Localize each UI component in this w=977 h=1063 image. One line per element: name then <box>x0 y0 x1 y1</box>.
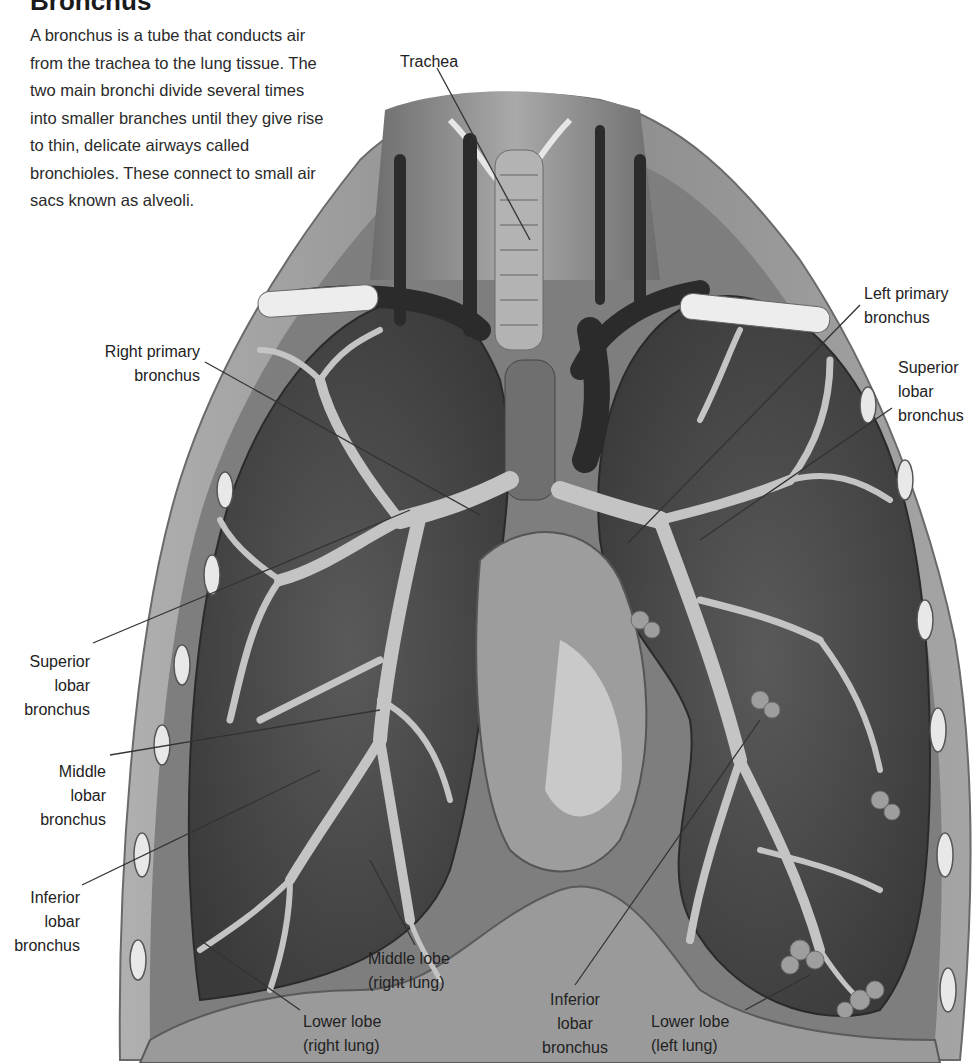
label-lower-lobe-left-lung: Lower lobe (left lung) <box>651 1010 729 1058</box>
label-right-primary-bronchus: Right primary bronchus <box>40 340 200 388</box>
label-middle-lobar-bronchus: Middle lobar bronchus <box>0 760 106 832</box>
intro-paragraph: A bronchus is a tube that conducts air f… <box>30 22 330 215</box>
label-inferior-lobar-bronchus-right: Inferior lobar bronchus <box>0 886 80 958</box>
page-title: Bronchus <box>30 0 151 17</box>
label-superior-lobar-bronchus-left: Superior lobar bronchus <box>898 356 964 428</box>
label-superior-lobar-bronchus-right: Superior lobar bronchus <box>0 650 90 722</box>
label-left-primary-bronchus: Left primary bronchus <box>864 282 948 330</box>
label-lower-lobe-right-lung: Lower lobe (right lung) <box>303 1010 381 1058</box>
label-inferior-lobar-bronchus-left: Inferior lobar bronchus <box>530 988 620 1060</box>
label-middle-lobe-right-lung: Middle lobe (right lung) <box>368 947 450 995</box>
label-trachea: Trachea <box>400 50 458 74</box>
